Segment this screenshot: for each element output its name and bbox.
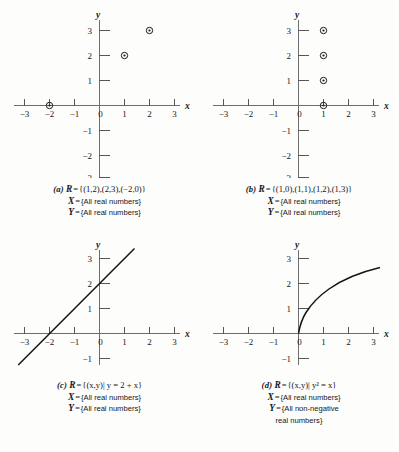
svg-text:3: 3 bbox=[287, 26, 292, 36]
panel-d-svg: −3 −2 −1 0 1 2 3 3 2 1 −1 x y bbox=[199, 230, 399, 375]
panel-c-caption: (c) R={(x,y)| y = 2 + x} X={All real num… bbox=[0, 380, 199, 415]
caption-value: {All real numbers} bbox=[81, 208, 141, 217]
panel-label: (b) bbox=[246, 184, 257, 194]
svg-text:2: 2 bbox=[287, 51, 292, 61]
panel-a: −3 −2 −1 0 1 2 3 3 2 1 −1 −2 −3 x y bbox=[0, 0, 199, 230]
svg-text:3: 3 bbox=[371, 337, 376, 347]
data-point-marker bbox=[121, 52, 127, 58]
caption-eq: = bbox=[274, 196, 281, 206]
caption-line-range: Y={All non-negative bbox=[199, 403, 399, 415]
x-axis-label-b: x bbox=[383, 101, 389, 111]
caption-var: X bbox=[267, 196, 273, 206]
panel-a-plot: −3 −2 −1 0 1 2 3 3 2 1 −1 −2 −3 x y bbox=[0, 0, 199, 178]
caption-eq: = bbox=[275, 403, 282, 413]
svg-text:0: 0 bbox=[297, 337, 302, 347]
svg-text:−1: −1 bbox=[70, 109, 80, 119]
caption-value: {All real numbers} bbox=[81, 197, 141, 206]
svg-text:1: 1 bbox=[88, 76, 93, 86]
svg-text:3: 3 bbox=[88, 26, 93, 36]
x-axis-label-c: x bbox=[184, 329, 190, 339]
caption-var: R bbox=[274, 380, 280, 390]
svg-text:2: 2 bbox=[88, 279, 93, 289]
caption-value: {All non-negative bbox=[282, 404, 339, 413]
y-axis-label-a: y bbox=[95, 10, 101, 20]
svg-text:1: 1 bbox=[122, 337, 127, 347]
caption-value: {All real numbers} bbox=[281, 197, 341, 206]
svg-text:1: 1 bbox=[287, 304, 292, 314]
caption-value: {All real numbers} bbox=[281, 393, 341, 402]
panel-d-plot: −3 −2 −1 0 1 2 3 3 2 1 −1 x y bbox=[199, 230, 399, 375]
caption-value: {(1,2),(2,3),(−2,0)} bbox=[79, 184, 146, 194]
svg-text:−2: −2 bbox=[82, 151, 92, 161]
svg-text:2: 2 bbox=[346, 109, 351, 119]
caption-value: {All real numbers} bbox=[81, 393, 141, 402]
y-ticks-b bbox=[298, 31, 309, 178]
caption-var: X bbox=[267, 392, 273, 402]
svg-text:3: 3 bbox=[287, 254, 292, 264]
svg-text:2: 2 bbox=[147, 337, 152, 347]
svg-text:−1: −1 bbox=[269, 337, 279, 347]
axes-d bbox=[213, 250, 379, 365]
svg-text:2: 2 bbox=[147, 109, 152, 119]
data-point-marker bbox=[320, 27, 326, 33]
svg-text:0: 0 bbox=[98, 109, 103, 119]
svg-text:0: 0 bbox=[297, 109, 302, 119]
panel-b: −3 −2 −1 0 1 2 3 3 2 1 −1 −2 −3 x y bbox=[199, 0, 399, 230]
caption-eq: = bbox=[74, 403, 81, 413]
svg-text:−1: −1 bbox=[269, 109, 279, 119]
y-tick-labels-b: 3 2 1 −1 −2 −3 bbox=[281, 26, 291, 178]
caption-eq: = bbox=[265, 184, 272, 194]
panel-c: −3 −2 −1 0 1 2 3 3 2 1 −1 x y bbox=[0, 230, 199, 452]
panel-label: (a) bbox=[53, 184, 64, 194]
data-points-b bbox=[320, 27, 326, 108]
svg-text:−3: −3 bbox=[20, 109, 30, 119]
svg-text:3: 3 bbox=[371, 109, 376, 119]
svg-text:1: 1 bbox=[321, 109, 326, 119]
svg-text:1: 1 bbox=[122, 109, 127, 119]
panel-b-caption: (b) R={(1,0),(1,1),(1,2),(1,3)} X={All r… bbox=[199, 184, 399, 219]
svg-text:−2: −2 bbox=[281, 151, 291, 161]
svg-text:−3: −3 bbox=[82, 173, 92, 178]
caption-line-relation: (d) R={(x,y)| y² = x} bbox=[199, 380, 399, 392]
caption-value: {(x,y)| y = 2 + x} bbox=[82, 380, 142, 390]
x-tick-labels-d: −3 −2 −1 0 1 2 3 bbox=[219, 337, 377, 347]
caption-line-range-cont: real numbers} bbox=[199, 415, 399, 427]
svg-text:−3: −3 bbox=[219, 337, 229, 347]
y-axis-label-b: y bbox=[294, 10, 300, 20]
svg-text:1: 1 bbox=[321, 337, 326, 347]
panel-a-caption: (a) R={(1,2),(2,3),(−2,0)} X={All real n… bbox=[0, 184, 199, 219]
svg-text:2: 2 bbox=[88, 51, 93, 61]
svg-text:−1: −1 bbox=[281, 354, 291, 364]
caption-line-relation: (c) R={(x,y)| y = 2 + x} bbox=[0, 380, 199, 392]
svg-text:−2: −2 bbox=[244, 109, 254, 119]
svg-text:−2: −2 bbox=[45, 109, 55, 119]
caption-value: {All real numbers} bbox=[280, 208, 340, 217]
caption-line-domain: X={All real numbers} bbox=[199, 196, 399, 208]
svg-text:−1: −1 bbox=[82, 354, 92, 364]
caption-eq: = bbox=[281, 380, 288, 390]
caption-eq: = bbox=[74, 207, 81, 217]
caption-line-range: Y={All real numbers} bbox=[199, 207, 399, 219]
y-tick-labels-c: 3 2 1 −1 bbox=[82, 254, 92, 364]
caption-line-domain: X={All real numbers} bbox=[0, 392, 199, 404]
data-point-marker bbox=[320, 77, 326, 83]
axes-c bbox=[14, 250, 180, 365]
panel-b-svg: −3 −2 −1 0 1 2 3 3 2 1 −1 −2 −3 x y bbox=[199, 0, 399, 178]
caption-line-range: Y={All real numbers} bbox=[0, 207, 199, 219]
y-tick-labels-d: 3 2 1 −1 bbox=[281, 254, 291, 364]
svg-text:1: 1 bbox=[88, 304, 93, 314]
panel-a-svg: −3 −2 −1 0 1 2 3 3 2 1 −1 −2 −3 x y bbox=[0, 0, 199, 178]
svg-text:−3: −3 bbox=[20, 337, 30, 347]
svg-text:−1: −1 bbox=[70, 337, 80, 347]
svg-text:3: 3 bbox=[172, 337, 177, 347]
caption-value: {(1,0),(1,1),(1,2),(1,3)} bbox=[272, 184, 353, 194]
y-axis-label-d: y bbox=[294, 240, 300, 250]
caption-value: real numbers} bbox=[276, 416, 323, 425]
panel-label: (d) bbox=[262, 380, 273, 390]
svg-text:1: 1 bbox=[287, 76, 292, 86]
svg-text:2: 2 bbox=[346, 337, 351, 347]
caption-line-domain: X={All real numbers} bbox=[0, 196, 199, 208]
caption-value: {(x,y)| y² = x} bbox=[288, 380, 337, 390]
svg-text:0: 0 bbox=[98, 337, 103, 347]
svg-text:−3: −3 bbox=[281, 173, 291, 178]
